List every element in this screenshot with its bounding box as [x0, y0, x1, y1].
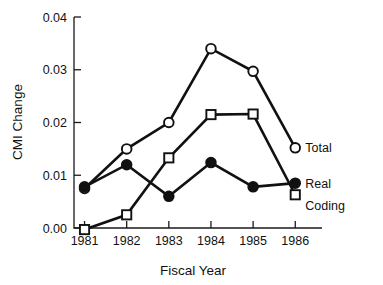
cmi-change-line-chart: 0.000.010.020.030.04 1981198219831984198…	[0, 0, 383, 285]
data-point-coding-1986	[291, 190, 300, 199]
y-tick-label-0.04: 0.04	[43, 11, 67, 25]
x-axis-ticks	[85, 221, 296, 228]
plot-frame	[74, 17, 322, 228]
data-point-real-1982	[122, 160, 132, 170]
series-line-total	[85, 49, 296, 189]
data-point-total-1986	[290, 143, 300, 153]
data-point-real-1981	[80, 182, 90, 192]
data-point-coding-1982	[122, 210, 131, 219]
data-point-total-1985	[248, 67, 258, 77]
data-point-total-1983	[164, 118, 174, 128]
y-axis-tick-labels: 0.000.010.020.030.04	[43, 11, 67, 236]
series-label-total: Total	[305, 141, 331, 155]
series-line-real	[85, 163, 296, 197]
data-point-real-1986	[290, 178, 300, 188]
x-tick-label-1984: 1984	[197, 234, 225, 248]
data-point-real-1984	[206, 158, 216, 168]
x-tick-label-1985: 1985	[239, 234, 267, 248]
data-point-coding-1983	[164, 153, 173, 162]
y-tick-label-0.02: 0.02	[43, 116, 67, 130]
x-tick-label-1983: 1983	[155, 234, 183, 248]
chart-page: 0.000.010.020.030.04 1981198219831984198…	[0, 0, 383, 285]
series-line-coding	[85, 114, 296, 230]
series-label-coding: Coding	[305, 199, 345, 213]
data-point-total-1982	[122, 144, 132, 154]
series-lines-group	[85, 49, 296, 230]
data-point-coding-1984	[206, 110, 215, 119]
data-point-real-1983	[164, 192, 174, 202]
x-axis-tick-labels: 198119821983198419851986	[71, 234, 310, 248]
data-point-coding-1985	[249, 109, 258, 118]
y-axis-ticks	[74, 17, 81, 228]
x-tick-label-1982: 1982	[113, 234, 141, 248]
x-tick-label-1981: 1981	[71, 234, 99, 248]
y-tick-label-0.01: 0.01	[43, 169, 67, 183]
data-point-total-1984	[206, 44, 216, 54]
data-point-real-1985	[248, 182, 258, 192]
y-tick-label-0.00: 0.00	[43, 222, 67, 236]
data-point-coding-1981	[80, 225, 89, 234]
x-tick-label-1986: 1986	[281, 234, 309, 248]
x-axis-title: Fiscal Year	[160, 263, 227, 278]
series-label-real: Real	[305, 177, 331, 191]
series-end-labels-group: TotalRealCoding	[305, 141, 345, 213]
y-axis-title: CMI Change	[10, 84, 25, 160]
y-tick-label-0.03: 0.03	[43, 63, 67, 77]
